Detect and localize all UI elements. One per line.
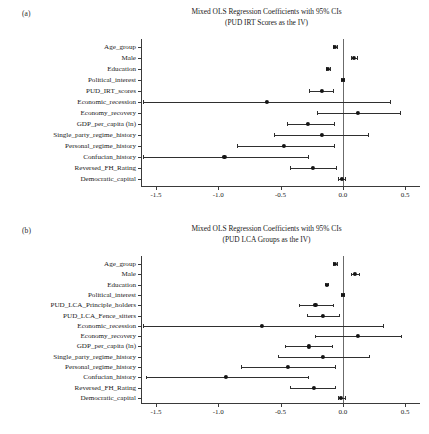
ci-cap-upper [359, 273, 360, 276]
ci-cap-lower [278, 355, 279, 358]
coefficient-point [222, 155, 226, 159]
panel-b: (b)Mixed OLS Regression Coefficients wit… [0, 217, 429, 434]
ci-cap-lower [146, 376, 147, 379]
ci-cap-lower [317, 111, 318, 114]
coefficient-point [306, 122, 310, 126]
x-tick-label: -1.0 [213, 408, 224, 416]
x-tick-label: 0.0 [338, 408, 347, 416]
category-label: Economic_recession [0, 98, 139, 106]
coefficient-point [265, 100, 269, 104]
x-tick-label: 0.5 [401, 408, 410, 416]
ci-cap-lower [299, 304, 300, 307]
x-tick-label: 0.5 [401, 191, 410, 199]
x-tick [156, 187, 157, 190]
x-tick-label: -1.5 [150, 191, 161, 199]
x-tick [343, 187, 344, 190]
x-tick-label: 0.0 [338, 191, 347, 199]
coefficient-point [313, 303, 317, 307]
category-label: PUD_LCA_Principle_holders [0, 301, 139, 309]
category-label: PUD_IRT_scores [0, 87, 139, 95]
ci-cap-lower [309, 89, 310, 92]
category-label: Education [0, 281, 139, 289]
ci-cap-upper [328, 283, 329, 286]
ci-cap-upper [336, 166, 337, 169]
ci-cap-upper [401, 335, 402, 338]
coefficient-point [286, 365, 290, 369]
ci-cap-upper [334, 122, 335, 125]
category-label: Economy_recovery [0, 332, 139, 340]
ci-cap-upper [308, 155, 309, 158]
category-label: Age_group [0, 43, 139, 51]
category-label: Democratic_capital [0, 175, 139, 183]
category-label: Reversed_FH_Rating [0, 384, 139, 392]
category-label: Single_party_regime_history [0, 353, 139, 361]
ci-cap-lower [315, 335, 316, 338]
coefficient-point [307, 344, 311, 348]
ci-cap-upper [337, 45, 338, 48]
category-label: Political_interest [0, 76, 139, 84]
ci-cap-upper [369, 355, 370, 358]
category-label: Political_interest [0, 291, 139, 299]
category-label: Confucian_history [0, 373, 139, 381]
ci-cap-upper [390, 100, 391, 103]
ci-cap-upper [383, 324, 384, 327]
coefficient-point [321, 355, 325, 359]
category-label: Male [0, 270, 139, 278]
ci-cap-upper [333, 89, 334, 92]
x-tick [281, 404, 282, 407]
coefficient-point [320, 89, 324, 93]
category-label: Single_party_regime_history [0, 131, 139, 139]
category-label: Personal_regime_history [0, 363, 139, 371]
ci-cap-lower [287, 122, 288, 125]
ci-cap-upper [330, 67, 331, 70]
x-tick [281, 187, 282, 190]
zero-reference-line [343, 256, 344, 403]
category-label: Reversed_FH_Rating [0, 164, 139, 172]
coefficient-point [352, 56, 356, 60]
coefficient-point [320, 133, 324, 137]
x-tick [156, 404, 157, 407]
ci-cap-upper [345, 177, 346, 180]
category-label: GDP_per_capita (ln) [0, 120, 139, 128]
category-label: Confucian_history [0, 153, 139, 161]
ci-cap-upper [400, 111, 401, 114]
ci-cap-lower [241, 365, 242, 368]
y-axis-labels: Age_groupMaleEducationPolitical_interest… [0, 217, 139, 434]
coefficient-point [353, 272, 357, 276]
coefficient-point [321, 313, 325, 317]
x-tick-label: -0.5 [275, 408, 286, 416]
ci-cap-upper [332, 345, 333, 348]
ci-cap-lower [285, 345, 286, 348]
ci-cap-lower [143, 100, 144, 103]
ci-cap-lower [290, 386, 291, 389]
category-label: Age_group [0, 260, 139, 268]
x-tick-label: -1.5 [150, 408, 161, 416]
coefficient-point [356, 111, 360, 115]
ci-cap-upper [368, 133, 369, 136]
ci-cap-upper [345, 396, 346, 399]
x-tick [405, 187, 406, 190]
ci-cap-lower [237, 144, 238, 147]
ci-cap-upper [333, 304, 334, 307]
ci-cap-lower [307, 314, 308, 317]
ci-cap-upper [308, 376, 309, 379]
coefficient-point [224, 375, 228, 379]
y-axis-line [141, 256, 142, 403]
category-label: Economy_recovery [0, 109, 139, 117]
ci-cap-upper [335, 365, 336, 368]
category-label: PUD_LCA_Fence_sitters [0, 312, 139, 320]
ci-cap-lower [290, 166, 291, 169]
category-label: Male [0, 54, 139, 62]
ci-cap-upper [334, 144, 335, 147]
ci-cap-upper [337, 262, 338, 265]
coefficient-point [311, 166, 315, 170]
x-tick [218, 187, 219, 190]
coefficient-point [282, 144, 286, 148]
ci-cap-upper [335, 386, 336, 389]
ci-cap-upper [357, 56, 358, 59]
x-tick-label: -1.0 [213, 191, 224, 199]
coefficient-point [260, 324, 264, 328]
category-label: Education [0, 65, 139, 73]
x-tick [405, 404, 406, 407]
category-label: GDP_per_capita (ln) [0, 342, 139, 350]
